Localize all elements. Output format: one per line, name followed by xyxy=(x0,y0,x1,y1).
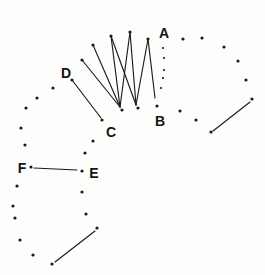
figure-page: ABCDEF xyxy=(0,0,265,275)
small-column-dot xyxy=(162,77,164,79)
zigzag-connector-line xyxy=(130,32,136,105)
inner-arc-dot xyxy=(95,226,98,229)
outer-arc-dot xyxy=(23,143,26,146)
outer-arc-dot xyxy=(236,59,239,62)
outer-arc-dot xyxy=(91,43,94,46)
outer-arc-dot xyxy=(35,96,38,99)
outer-arc-dot xyxy=(50,262,53,265)
segment-line xyxy=(213,102,250,131)
point-label-F: F xyxy=(18,160,27,176)
segment-line xyxy=(55,231,95,262)
outer-arc-dot xyxy=(29,165,32,168)
segment-line xyxy=(34,168,77,170)
outer-arc-dot xyxy=(18,238,21,241)
outer-arc-dot xyxy=(250,97,253,100)
inner-arc-dot xyxy=(83,151,86,154)
point-label-B: B xyxy=(155,113,165,129)
outer-arc-dot xyxy=(80,58,83,61)
outer-arc-dot xyxy=(19,126,22,129)
inner-arc-dot xyxy=(80,190,83,193)
outer-arc-dot xyxy=(109,34,112,37)
inner-arc-dot xyxy=(120,108,123,111)
outer-arc-dot xyxy=(31,253,34,256)
zigzag-connector-line xyxy=(120,32,130,107)
inner-arc-dot xyxy=(91,139,94,142)
outer-arc-dot xyxy=(15,184,18,187)
point-label-A: A xyxy=(159,25,169,41)
point-label-C: C xyxy=(106,124,116,140)
inner-arc-dot xyxy=(100,118,103,121)
point-label-E: E xyxy=(89,165,98,181)
dot-pattern-figure: ABCDEF xyxy=(0,0,265,275)
outer-arc-dot xyxy=(13,216,16,219)
outer-arc-dot xyxy=(24,106,27,109)
outer-arc-dot xyxy=(200,36,203,39)
outer-arc-dot xyxy=(51,86,54,89)
outer-arc-dot xyxy=(11,204,14,207)
small-column-dot xyxy=(162,47,164,49)
outer-arc-dot xyxy=(128,30,131,33)
inner-arc-dot xyxy=(84,212,87,215)
inner-arc-dot xyxy=(178,109,181,112)
zigzag-connector-line xyxy=(72,80,101,118)
outer-arc-dot xyxy=(181,37,184,40)
zigzag-connector-line xyxy=(136,39,148,105)
outer-arc-dot xyxy=(244,78,247,81)
zigzag-connector-line xyxy=(148,39,155,98)
inner-arc-dot xyxy=(80,169,83,172)
point-label-D: D xyxy=(61,65,71,81)
inner-arc-dot xyxy=(155,104,158,107)
small-column-dot xyxy=(163,57,165,59)
small-column-dot xyxy=(163,69,165,71)
outer-arc-dot xyxy=(222,45,225,48)
outer-arc-dot xyxy=(146,37,149,40)
inner-arc-dot xyxy=(194,118,197,121)
inner-arc-dot xyxy=(209,130,212,133)
small-column-dot xyxy=(160,87,162,89)
inner-arc-dot xyxy=(136,106,139,109)
